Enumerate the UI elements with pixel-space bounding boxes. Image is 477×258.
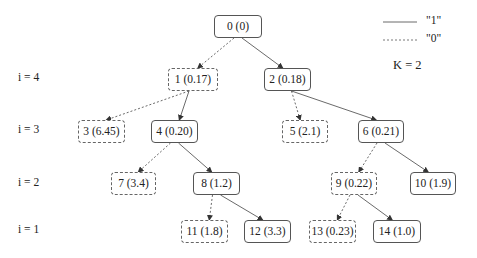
- level-label: i = 2: [18, 176, 39, 188]
- tree-node-5: 5 (2.1): [282, 120, 328, 143]
- legend-dashed-label: "0": [426, 32, 441, 44]
- tree-node-12: 12 (3.3): [244, 220, 291, 243]
- edge-4-7: [138, 143, 170, 172]
- k-value-label: K = 2: [393, 58, 422, 73]
- tree-node-8: 8 (1.2): [193, 172, 240, 195]
- edge-1-4: [179, 91, 189, 120]
- edge-9-13: [337, 195, 350, 220]
- edge-0-2: [242, 38, 283, 68]
- legend-solid-label: "1": [426, 14, 441, 26]
- tree-node-0: 0 (0): [214, 15, 262, 38]
- tree-node-11: 11 (1.8): [181, 220, 228, 243]
- level-label: i = 4: [18, 71, 39, 83]
- tree-node-13: 13 (0.23): [309, 220, 356, 243]
- tree-node-10: 10 (1.9): [410, 172, 456, 195]
- tree-node-14: 14 (1.0): [373, 220, 421, 243]
- level-label: i = 1: [18, 223, 39, 235]
- tree-node-7: 7 (3.4): [111, 172, 156, 195]
- level-label: i = 3: [18, 123, 39, 135]
- tree-node-2: 2 (0.18): [264, 68, 311, 91]
- tree-node-9: 9 (0.22): [331, 172, 377, 195]
- edge-9-14: [358, 195, 392, 220]
- tree-node-3: 3 (6.45): [78, 120, 125, 143]
- edge-8-11: [209, 195, 212, 220]
- edge-6-10: [385, 143, 428, 172]
- edge-0-1: [198, 38, 234, 68]
- tree-diagram: i = 4i = 3i = 2i = 1 0 (0)1 (0.17)2 (0.1…: [0, 0, 477, 258]
- edge-1-3: [106, 91, 189, 120]
- tree-node-4: 4 (0.20): [151, 120, 198, 143]
- tree-node-1: 1 (0.17): [168, 68, 218, 91]
- edge-2-6: [292, 91, 377, 120]
- edge-8-12: [221, 195, 263, 220]
- tree-node-6: 6 (0.21): [358, 120, 404, 143]
- edge-2-5: [292, 91, 301, 120]
- edge-6-9: [359, 143, 377, 172]
- edge-4-8: [179, 143, 212, 172]
